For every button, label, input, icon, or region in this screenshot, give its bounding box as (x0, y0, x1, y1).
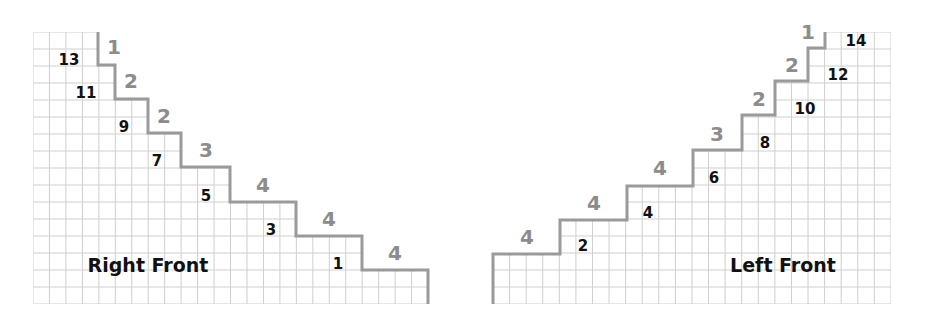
step-count-label: 4 (520, 227, 534, 247)
step-count-label: 1 (801, 22, 815, 42)
left-front-chart: 44432212468101214 Left Front (0, 0, 928, 320)
row-number-label: 2 (578, 239, 588, 254)
step-count-label: 4 (653, 158, 667, 178)
row-number-label: 14 (846, 34, 867, 49)
row-number-label: 12 (828, 68, 849, 83)
step-count-label: 3 (710, 124, 724, 144)
step-count-label: 4 (587, 193, 601, 213)
row-number-label: 8 (760, 136, 770, 151)
step-count-label: 2 (785, 55, 799, 75)
row-number-label: 4 (643, 206, 653, 221)
row-number-label: 10 (795, 102, 816, 117)
row-number-label: 6 (709, 171, 719, 186)
step-count-label: 2 (752, 89, 766, 109)
left-front-title: Left Front (730, 256, 836, 275)
